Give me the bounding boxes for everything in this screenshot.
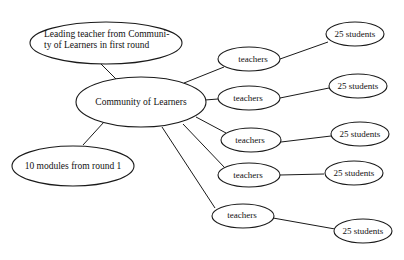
edge-teachers-2-to-students-2 bbox=[280, 88, 329, 98]
node-teachers-3-label: teachers bbox=[235, 135, 265, 145]
edge-community-to-teachers-5 bbox=[162, 127, 215, 208]
node-community-of-learners: Community of Learners bbox=[76, 77, 206, 127]
edge-teachers-5-to-students-5 bbox=[273, 218, 335, 229]
node-teachers-5-label: teachers bbox=[227, 210, 257, 220]
node-community-label: Community of Learners bbox=[95, 97, 187, 107]
node-teachers-3: teachers bbox=[221, 128, 281, 152]
edge-community-to-teachers-3 bbox=[196, 117, 226, 133]
node-students-1: 25 students bbox=[326, 22, 384, 46]
node-teachers-5: teachers bbox=[212, 204, 274, 228]
edge-leading-teacher-to-community bbox=[101, 64, 117, 80]
edge-community-to-teachers-2 bbox=[205, 99, 218, 100]
node-teachers-4-label: teachers bbox=[233, 170, 263, 180]
node-leading-teacher: Leading teacher from Communi- ty of Lear… bbox=[30, 22, 182, 64]
node-teachers-2: teachers bbox=[218, 86, 280, 110]
node-teachers-1-label: teachers bbox=[238, 54, 268, 64]
node-students-3: 25 students bbox=[331, 122, 389, 146]
node-modules: 10 modules from round 1 bbox=[12, 146, 134, 186]
node-students-3-label: 25 students bbox=[340, 129, 381, 139]
edge-teachers-1-to-students-1 bbox=[280, 42, 328, 59]
community-of-learners-diagram: Leading teacher from Communi- ty of Lear… bbox=[0, 0, 404, 260]
node-leading-teacher-line1: Leading teacher from Communi- bbox=[44, 29, 169, 39]
node-students-4: 25 students bbox=[325, 161, 383, 185]
edge-community-to-teachers-1 bbox=[184, 67, 224, 83]
node-students-2-label: 25 students bbox=[338, 81, 379, 91]
edge-teachers-3-to-students-3 bbox=[281, 136, 331, 142]
node-leading-teacher-line2: ty of Learners in first round bbox=[44, 40, 150, 50]
edge-community-to-modules bbox=[83, 122, 104, 145]
node-teachers-2-label: teachers bbox=[233, 93, 263, 103]
node-students-2: 25 students bbox=[329, 74, 387, 98]
node-teachers-4: teachers bbox=[218, 163, 280, 187]
node-students-1-label: 25 students bbox=[335, 29, 376, 39]
edge-community-to-teachers-4 bbox=[183, 124, 225, 168]
node-students-5: 25 students bbox=[334, 219, 392, 243]
node-modules-label: 10 modules from round 1 bbox=[25, 161, 122, 171]
edges bbox=[83, 42, 335, 229]
node-students-5-label: 25 students bbox=[343, 226, 384, 236]
node-teachers-1: teachers bbox=[218, 47, 280, 71]
node-students-4-label: 25 students bbox=[334, 168, 375, 178]
edge-teachers-4-to-students-4 bbox=[280, 174, 324, 175]
